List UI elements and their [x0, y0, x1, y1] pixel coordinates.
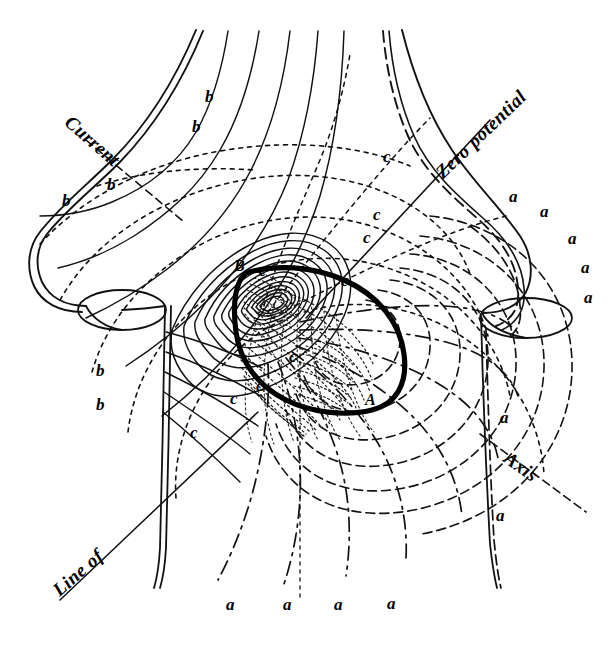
- curve-label-b: b: [205, 88, 214, 105]
- curve-label-c: c: [190, 424, 198, 441]
- node-label-a: A: [365, 392, 376, 408]
- curve-label-c: c: [383, 148, 391, 165]
- curve-label-b: b: [107, 176, 116, 193]
- curve-label-a: a: [500, 409, 509, 426]
- family-a-field-lines: [218, 306, 520, 584]
- curve-label-c: c: [256, 377, 264, 394]
- field-diagram-figure: Current Line of Zero potential Axis B A …: [0, 0, 612, 645]
- outer-body-outline-right: [402, 30, 531, 313]
- curve-label-a: a: [581, 259, 590, 276]
- curve-label-b: b: [96, 362, 105, 379]
- curve-label-a: a: [226, 596, 235, 613]
- curve-label-c: c: [289, 348, 297, 365]
- curve-label-c: c: [373, 206, 381, 223]
- curve-label-b: b: [62, 192, 71, 209]
- curve-label-a: a: [283, 596, 292, 613]
- curve-label-a: a: [496, 507, 505, 524]
- zero-potential-curve: [383, 31, 518, 326]
- family-b-current-lines: [40, 31, 351, 416]
- curve-label-c: c: [259, 262, 267, 279]
- left-column: [122, 306, 171, 588]
- zero-potential-curve-solid: [389, 31, 524, 330]
- node-label-b: B: [234, 258, 245, 274]
- curve-label-a: a: [387, 595, 396, 612]
- curve-label-b: b: [96, 396, 105, 413]
- curve-label-b: b: [192, 118, 201, 135]
- curve-label-c: c: [363, 229, 371, 246]
- curve-label-c: c: [341, 272, 349, 289]
- curve-label-c: c: [230, 390, 238, 407]
- curve-label-a: a: [334, 596, 343, 613]
- curve-label-a: a: [568, 230, 577, 247]
- curve-label-a: a: [509, 188, 518, 205]
- curve-label-a: a: [540, 203, 549, 220]
- curve-label-a: a: [584, 289, 593, 306]
